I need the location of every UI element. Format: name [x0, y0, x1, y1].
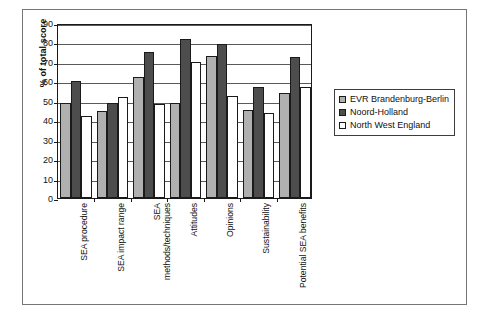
legend-item: North West England	[339, 119, 449, 132]
y-axis-tick-label: 10	[43, 175, 53, 184]
y-axis-tick-mark	[54, 122, 58, 123]
x-axis-tick-mark	[131, 198, 132, 202]
bar-group	[58, 25, 94, 198]
bar	[253, 87, 264, 198]
bar	[206, 56, 217, 198]
y-axis-tick-label: 0	[48, 195, 53, 204]
bar-series-container	[58, 25, 311, 198]
y-axis-tick-label: 20	[43, 156, 53, 165]
bar	[227, 96, 238, 198]
x-axis-tick-mark	[94, 198, 95, 202]
chart-figure: % of total score 0102030405060708090 SEA…	[0, 0, 489, 315]
bar	[279, 93, 290, 198]
x-axis-tick-mark	[277, 198, 278, 202]
y-axis-tick-label: 30	[43, 136, 53, 145]
x-axis-tick-mark	[240, 198, 241, 202]
y-axis-tick-label: 50	[43, 97, 53, 106]
x-axis-category-label: SEA impact range	[116, 203, 126, 299]
y-axis-tick-mark	[54, 161, 58, 162]
bar-group	[131, 25, 167, 198]
legend-label: Noord-Holland	[350, 108, 408, 117]
legend-item: EVR Brandenburg-Berlin	[339, 93, 449, 106]
y-axis-tick-mark	[54, 200, 58, 201]
y-axis-tick-label: 90	[43, 20, 53, 29]
bar-group	[277, 25, 313, 198]
bar-group	[94, 25, 130, 198]
bar	[300, 87, 311, 198]
y-axis-tick-label: 70	[43, 58, 53, 67]
legend-label: North West England	[350, 121, 430, 130]
x-axis-category-label: SEA methods/techniques	[152, 203, 172, 299]
x-axis-category-label: Sustainability	[261, 203, 271, 299]
legend-item: Noord-Holland	[339, 106, 449, 119]
x-axis-tick-mark	[167, 198, 168, 202]
x-axis-category-label: Attitudes	[189, 203, 199, 299]
legend-label: EVR Brandenburg-Berlin	[350, 95, 449, 104]
bar	[191, 62, 202, 198]
x-axis-category-label: SEA procedure	[79, 203, 89, 299]
bar	[170, 103, 181, 198]
legend-swatch-icon	[339, 109, 346, 116]
bar	[81, 116, 92, 198]
x-axis-category-labels: SEA procedureSEA impact rangeSEA methods…	[57, 203, 312, 303]
legend-swatch-icon	[339, 96, 346, 103]
y-axis-tick-mark	[54, 25, 58, 26]
plot-area	[57, 24, 312, 199]
y-axis-tick-label: 80	[43, 39, 53, 48]
x-axis-tick-mark	[204, 198, 205, 202]
bar	[243, 110, 254, 198]
legend-swatch-icon	[339, 122, 346, 129]
y-axis-tick-mark	[54, 103, 58, 104]
bar	[107, 103, 118, 198]
y-axis-tick-mark	[54, 181, 58, 182]
y-axis-tick-mark	[54, 83, 58, 84]
y-axis-tick-labels: 0102030405060708090	[28, 24, 53, 199]
bar	[71, 81, 82, 198]
bar-group	[204, 25, 240, 198]
bar	[264, 113, 275, 198]
bar	[290, 57, 301, 198]
chart-legend: EVR Brandenburg-BerlinNoord-HollandNorth…	[334, 89, 455, 136]
bar	[154, 104, 165, 198]
bar	[118, 97, 129, 198]
x-axis-category-label: Opinions	[225, 203, 235, 299]
bar	[133, 77, 144, 198]
x-axis-category-label: Potential SEA benefits	[298, 203, 308, 299]
y-axis-tick-label: 60	[43, 78, 53, 87]
bar	[217, 44, 228, 198]
y-axis-tick-mark	[54, 44, 58, 45]
bar-group	[240, 25, 276, 198]
bar	[97, 111, 108, 199]
y-axis-tick-mark	[54, 142, 58, 143]
y-axis-tick-mark	[54, 64, 58, 65]
bar	[180, 39, 191, 198]
y-axis-tick-label: 40	[43, 117, 53, 126]
bar	[144, 52, 155, 198]
bar	[60, 103, 71, 198]
bar-group	[167, 25, 203, 198]
